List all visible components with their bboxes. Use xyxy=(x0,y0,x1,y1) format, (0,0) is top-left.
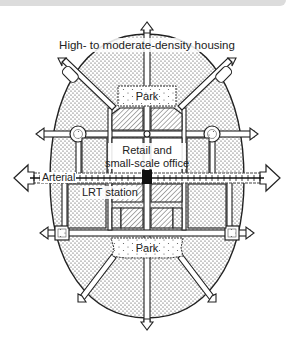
label-lrt-station: LRT station xyxy=(82,186,138,198)
label-arterial: Arterial xyxy=(42,171,75,183)
label-retail-line1: Retail and xyxy=(122,144,172,156)
tod-diagram: High- to moderate-density housing Park R… xyxy=(0,0,294,338)
label-retail-line2: small-scale office xyxy=(105,157,189,169)
label-park-bottom: Park xyxy=(136,242,159,254)
arrow-west-lower-icon xyxy=(40,227,48,239)
label-housing: High- to moderate-density housing xyxy=(59,39,235,51)
arrow-west-upper-icon xyxy=(36,128,44,140)
lrt-station-marker xyxy=(142,170,152,184)
arrow-east-upper-icon xyxy=(250,128,258,140)
arrow-east-lower-icon xyxy=(246,227,254,239)
label-park-top: Park xyxy=(136,90,159,102)
arrow-south-icon xyxy=(141,319,153,330)
arrow-north-icon xyxy=(141,22,153,33)
